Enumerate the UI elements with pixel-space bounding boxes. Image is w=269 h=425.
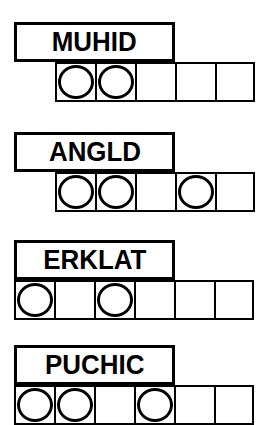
circle-icon bbox=[58, 65, 94, 99]
word-label-box: ERKLAT bbox=[14, 240, 175, 280]
grid-cell[interactable] bbox=[94, 280, 134, 320]
grid-cell[interactable] bbox=[174, 385, 214, 425]
grid-cell[interactable] bbox=[174, 280, 214, 320]
circle-icon bbox=[98, 175, 134, 209]
circle-icon bbox=[58, 175, 94, 209]
answer-grid bbox=[14, 385, 254, 425]
grid-cell[interactable] bbox=[94, 385, 134, 425]
word-label-box: ANGLD bbox=[14, 132, 175, 172]
grid-cell[interactable] bbox=[95, 62, 135, 102]
grid-cell[interactable] bbox=[215, 172, 255, 212]
grid-cell[interactable] bbox=[215, 62, 255, 102]
grid-cell[interactable] bbox=[134, 280, 174, 320]
answer-grid bbox=[55, 172, 255, 212]
word-label-text: ANGLD bbox=[48, 139, 140, 166]
grid-cell[interactable] bbox=[134, 385, 174, 425]
word-label-text: ERKLAT bbox=[43, 247, 146, 274]
answer-grid bbox=[14, 280, 254, 320]
circle-icon bbox=[178, 175, 214, 209]
circle-icon bbox=[17, 283, 53, 317]
grid-cell[interactable] bbox=[95, 172, 135, 212]
circle-icon bbox=[137, 388, 173, 422]
grid-cell[interactable] bbox=[55, 62, 95, 102]
grid-cell[interactable] bbox=[14, 280, 54, 320]
grid-cell[interactable] bbox=[14, 385, 54, 425]
word-label-box: PUCHIC bbox=[14, 345, 175, 385]
grid-cell[interactable] bbox=[54, 280, 94, 320]
circle-icon bbox=[17, 388, 53, 422]
circle-icon bbox=[98, 65, 134, 99]
circle-icon bbox=[57, 388, 93, 422]
word-label-box: MUHID bbox=[14, 22, 175, 62]
word-label-text: PUCHIC bbox=[45, 352, 144, 379]
grid-cell[interactable] bbox=[175, 62, 215, 102]
grid-cell[interactable] bbox=[214, 280, 254, 320]
grid-cell[interactable] bbox=[54, 385, 94, 425]
word-label-text: MUHID bbox=[52, 29, 137, 56]
grid-cell[interactable] bbox=[214, 385, 254, 425]
grid-cell[interactable] bbox=[55, 172, 95, 212]
grid-cell[interactable] bbox=[135, 172, 175, 212]
circle-icon bbox=[97, 283, 133, 317]
grid-cell[interactable] bbox=[135, 62, 175, 102]
grid-cell[interactable] bbox=[175, 172, 215, 212]
answer-grid bbox=[55, 62, 255, 102]
